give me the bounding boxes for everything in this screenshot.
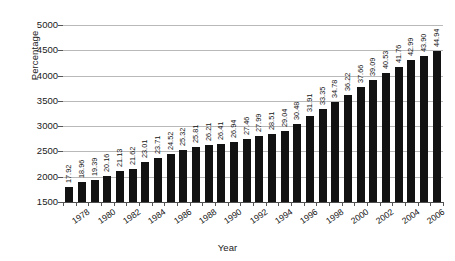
y-axis-tick-mark <box>58 151 63 152</box>
x-axis-tick-mark <box>342 202 343 206</box>
x-axis-tick-mark <box>228 202 229 206</box>
bar-item[interactable]: 25.32 <box>179 25 187 202</box>
x-axis-tick-label: 1982 <box>122 208 143 226</box>
bar-value-label: 39.09 <box>370 58 377 76</box>
x-axis-tick-mark <box>139 202 140 206</box>
x-axis-tick-label: 1980 <box>96 208 117 226</box>
bar-item[interactable]: 17.92 <box>65 25 73 202</box>
x-axis-tick-label: 2004 <box>400 208 421 226</box>
bar-item[interactable]: 19.39 <box>91 25 99 202</box>
y-axis-tick-label: 4500 <box>20 46 58 54</box>
bar[interactable] <box>331 102 339 202</box>
bar[interactable] <box>243 139 251 202</box>
bar-item[interactable]: 26.41 <box>217 25 225 202</box>
bar-item[interactable]: 29.04 <box>281 25 289 202</box>
bar[interactable] <box>129 169 137 202</box>
bar-value-label: 43.90 <box>420 34 427 52</box>
bar-item[interactable]: 40.53 <box>382 25 390 202</box>
bar-item[interactable]: 31.91 <box>306 25 314 202</box>
bar-value-label: 23.71 <box>154 136 161 154</box>
bar-item[interactable]: 26.94 <box>230 25 238 202</box>
x-axis-tick-mark <box>430 202 431 206</box>
bar[interactable] <box>230 142 238 202</box>
x-axis-tick-mark <box>177 202 178 206</box>
y-axis-tick-label: 2000 <box>20 173 58 181</box>
bar[interactable] <box>179 150 187 202</box>
x-axis-tick-mark <box>278 202 279 206</box>
x-axis-tick-mark <box>291 202 292 206</box>
y-axis-tick-mark <box>58 101 63 102</box>
bar-item[interactable]: 43.90 <box>420 25 428 202</box>
x-axis-tick-mark <box>190 202 191 206</box>
bar-item[interactable]: 34.78 <box>331 25 339 202</box>
bar-item[interactable]: 23.01 <box>141 25 149 202</box>
bar-item[interactable]: 18.96 <box>78 25 86 202</box>
x-axis-tick-mark <box>304 202 305 206</box>
bar-item[interactable]: 24.52 <box>167 25 175 202</box>
bar[interactable] <box>344 95 352 202</box>
bar[interactable] <box>78 182 86 202</box>
bar-value-label: 23.01 <box>142 139 149 157</box>
bar-item[interactable]: 25.81 <box>192 25 200 202</box>
x-axis-tick-mark <box>202 202 203 206</box>
bar-value-label: 41.76 <box>395 44 402 62</box>
bar-item[interactable]: 30.48 <box>293 25 301 202</box>
bar-value-label: 36.22 <box>344 72 351 90</box>
bar-item[interactable]: 27.99 <box>255 25 263 202</box>
bar[interactable] <box>141 162 149 203</box>
bar[interactable] <box>369 80 377 202</box>
x-axis-tick-label: 2002 <box>375 208 396 226</box>
bar-item[interactable]: 28.51 <box>268 25 276 202</box>
bar[interactable] <box>91 180 99 202</box>
bar-item[interactable]: 37.66 <box>357 25 365 202</box>
bar[interactable] <box>205 145 213 202</box>
y-axis-tick-label: 2500 <box>20 147 58 155</box>
bar[interactable] <box>65 187 73 202</box>
bar-item[interactable]: 44.94 <box>433 25 441 202</box>
bar-value-label: 18.96 <box>78 160 85 178</box>
bar-item[interactable]: 23.71 <box>154 25 162 202</box>
x-axis-tick-mark <box>240 202 241 206</box>
bar[interactable] <box>281 131 289 202</box>
bar-item[interactable]: 20.16 <box>103 25 111 202</box>
bar-value-label: 27.46 <box>243 117 250 135</box>
bar-value-label: 30.48 <box>294 101 301 119</box>
bar[interactable] <box>154 158 162 202</box>
bar-item[interactable]: 41.76 <box>395 25 403 202</box>
bar[interactable] <box>116 171 124 202</box>
bar-item[interactable]: 33.35 <box>319 25 327 202</box>
x-axis-tick-mark <box>126 202 127 206</box>
bar-item[interactable]: 42.99 <box>407 25 415 202</box>
bar[interactable] <box>103 176 111 202</box>
bar[interactable] <box>192 147 200 202</box>
bar-value-label: 25.32 <box>180 128 187 146</box>
bar[interactable] <box>268 134 276 202</box>
bar[interactable] <box>433 51 441 202</box>
bar-item[interactable]: 36.22 <box>344 25 352 202</box>
x-axis-tick-mark <box>152 202 153 206</box>
y-axis-tick-labels: 50004500400035003000250020001500 <box>18 0 58 261</box>
bar[interactable] <box>167 154 175 202</box>
bar[interactable] <box>319 109 327 202</box>
bar[interactable] <box>306 116 314 202</box>
y-axis-tick-mark <box>58 25 63 26</box>
bar[interactable] <box>217 144 225 202</box>
bar[interactable] <box>407 60 415 202</box>
bar[interactable] <box>293 124 301 202</box>
bar[interactable] <box>255 136 263 202</box>
bar[interactable] <box>395 67 403 202</box>
bar[interactable] <box>382 73 390 202</box>
bar[interactable] <box>357 87 365 202</box>
bar[interactable] <box>420 56 428 202</box>
x-axis-tick-label: 1990 <box>223 208 244 226</box>
bar-value-label: 42.99 <box>408 38 415 56</box>
bar-item[interactable]: 27.46 <box>243 25 251 202</box>
bar-item[interactable]: 26.21 <box>205 25 213 202</box>
bar-item[interactable]: 39.09 <box>369 25 377 202</box>
bar-item[interactable]: 21.13 <box>116 25 124 202</box>
bar-chart: Percentage 50004500400035003000250020001… <box>0 0 455 261</box>
y-axis-tick-label: 1500 <box>20 198 58 206</box>
bar-value-label: 21.62 <box>129 146 136 164</box>
bar-item[interactable]: 21.62 <box>129 25 137 202</box>
bar-value-label: 27.99 <box>256 114 263 132</box>
